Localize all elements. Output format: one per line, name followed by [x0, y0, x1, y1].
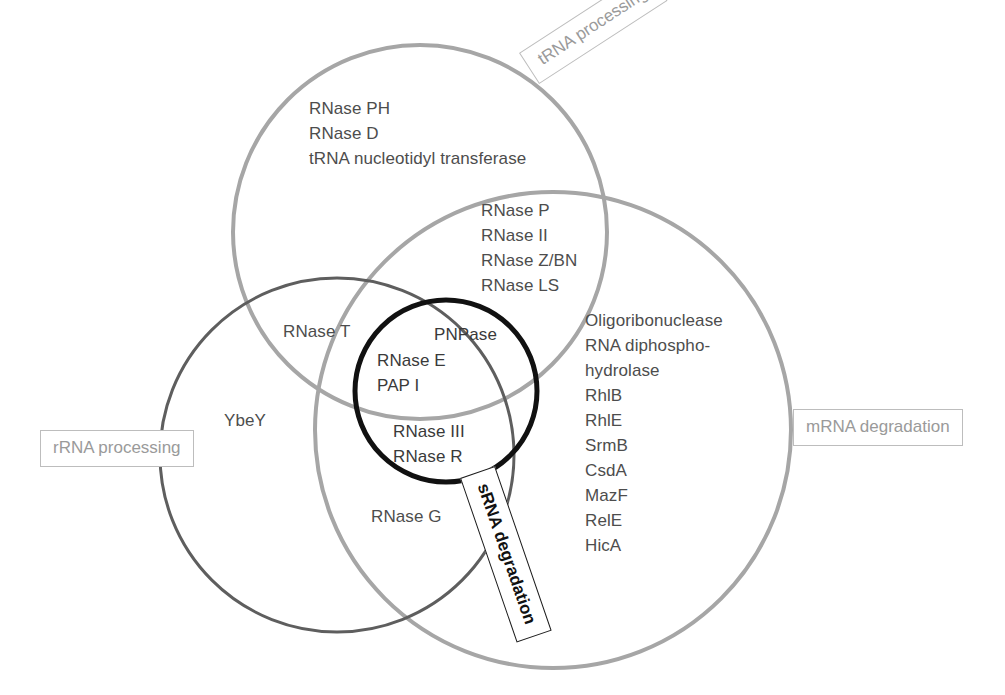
- region-label-rrna-only: YbeY: [224, 408, 266, 433]
- region-label-trna-mrna: RNase P RNase II RNase Z/BN RNase LS: [481, 198, 577, 298]
- region-label-rrna-trna: RNase T: [283, 319, 350, 344]
- region-label-mrna-only: Oligoribonuclease RNA diphospho- hydrola…: [585, 308, 723, 558]
- region-label-rrna-mrna: RNase G: [371, 504, 442, 529]
- region-label-srna-left: RNase E PAP I: [377, 348, 446, 398]
- category-label-rrna-processing: rRNA processing: [40, 430, 194, 467]
- category-label-mrna-degradation: mRNA degradation: [793, 409, 963, 446]
- region-label-srna-top: PNPase: [434, 322, 497, 347]
- region-label-trna-only: RNase PH RNase D tRNA nucleotidyl transf…: [309, 96, 526, 171]
- venn-diagram-figure: RNase PH RNase D tRNA nucleotidyl transf…: [0, 0, 1005, 695]
- region-label-srna-bottom: RNase III RNase R: [393, 419, 465, 469]
